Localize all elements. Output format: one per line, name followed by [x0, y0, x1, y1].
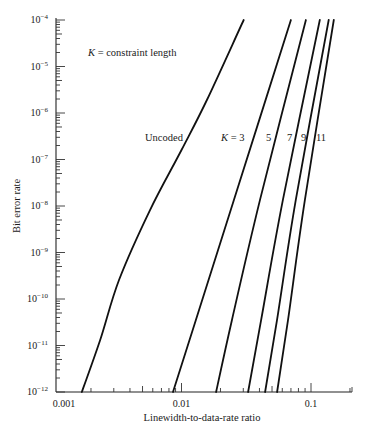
curves	[82, 20, 334, 392]
curve-k-3	[173, 20, 291, 392]
y-tick-label: 10−5	[31, 60, 49, 72]
label-k7: 7	[287, 132, 292, 143]
y-tick-label: 10−10	[27, 292, 48, 304]
label-k3: K = 3	[220, 132, 244, 143]
y-axis-title: Bit error rate	[11, 179, 22, 234]
curve-k-11	[277, 20, 334, 392]
y-axis-tick-labels: 10−410−510−610−710−810−910−1010−1110−12	[27, 13, 48, 397]
x-axis-tick-labels: 0.0010.010.1	[53, 398, 318, 409]
y-tick-label: 10−12	[27, 385, 48, 397]
x-tick-label: 0.001	[53, 398, 76, 409]
constraint-length-note: K = constraint length	[87, 47, 177, 58]
y-tick-label: 10−9	[31, 246, 49, 258]
y-tick-label: 10−8	[31, 199, 49, 211]
curve-k-5	[216, 20, 306, 392]
x-tick-label: 0.1	[305, 398, 318, 409]
curve-uncoded	[82, 20, 244, 392]
y-tick-label: 10−4	[31, 13, 49, 25]
label-uncoded: Uncoded	[145, 132, 184, 143]
ber-chart: 10−410−510−610−710−810−910−1010−1110−12 …	[0, 0, 365, 434]
label-k11: 11	[316, 132, 326, 143]
label-k9: 9	[301, 132, 306, 143]
y-tick-label: 10−6	[31, 106, 49, 118]
y-tick-label: 10−11	[27, 339, 48, 351]
x-axis-title: Linewidth-to-data-rate ratio	[144, 412, 261, 423]
label-k5: 5	[266, 132, 271, 143]
y-axis-ticks	[56, 20, 65, 392]
curve-k-9	[265, 20, 329, 392]
x-tick-label: 0.01	[173, 398, 191, 409]
x-axis-ticks	[91, 383, 352, 392]
y-tick-label: 10−7	[31, 153, 49, 165]
